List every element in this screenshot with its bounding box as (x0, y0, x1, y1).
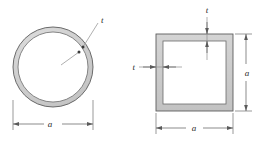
square-width-label: a (192, 123, 197, 133)
figure-canvas: t a t t (0, 0, 266, 147)
square-top-thickness-label: t (206, 5, 209, 15)
circular-tube-outer-edge (13, 27, 93, 107)
circle-diameter-label: a (48, 119, 53, 129)
square-tube-group: t t a a (132, 5, 252, 134)
square-left-thickness-label: t (132, 62, 135, 72)
circle-thickness-label: t (101, 15, 104, 25)
square-tube-outer-edge (156, 34, 233, 111)
engineering-figure: t a t t (0, 0, 266, 147)
square-tube-inner-edge (163, 41, 226, 104)
circular-tube-group: t a (13, 15, 104, 130)
circle-thickness-leader-outer (83, 23, 98, 47)
square-height-label: a (245, 68, 250, 78)
circular-tube-inner-edge (18, 32, 88, 102)
circle-thickness-leader-inner (61, 52, 79, 65)
square-tube-wall (156, 34, 233, 111)
